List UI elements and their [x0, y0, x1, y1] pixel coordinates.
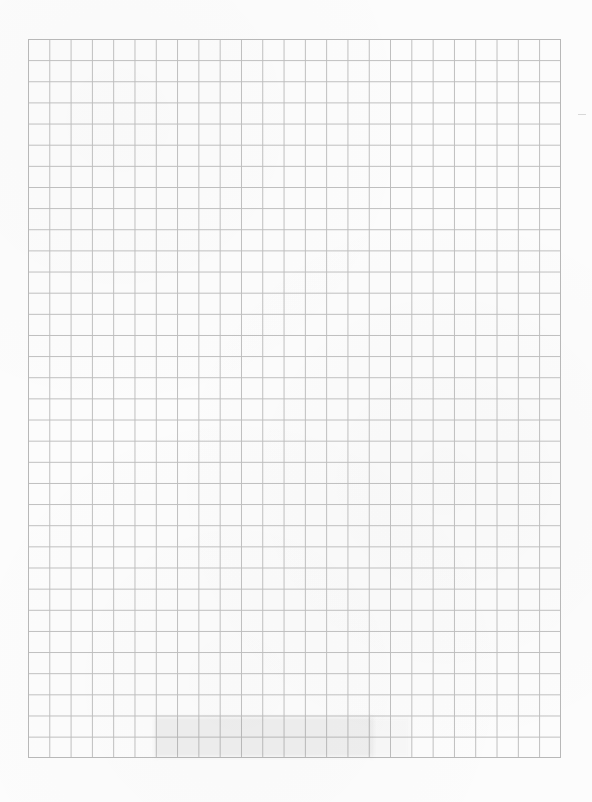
margin-mark	[578, 114, 586, 115]
graph-grid	[28, 39, 561, 758]
grid-paper-sheet	[0, 0, 592, 802]
